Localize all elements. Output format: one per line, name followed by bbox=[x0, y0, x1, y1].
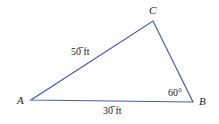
triangle-diagram: A B C 50̅ ft 30̅ ft 60° bbox=[0, 0, 219, 124]
vertex-label-b: B bbox=[199, 96, 206, 107]
vertex-label-c: C bbox=[149, 5, 156, 16]
angle-b-measure: 60° bbox=[168, 88, 182, 98]
side-ab-length: 30̅ ft bbox=[103, 106, 122, 116]
vertex-label-a: A bbox=[17, 95, 24, 106]
side-ac-length: 50̅ ft bbox=[71, 47, 90, 57]
